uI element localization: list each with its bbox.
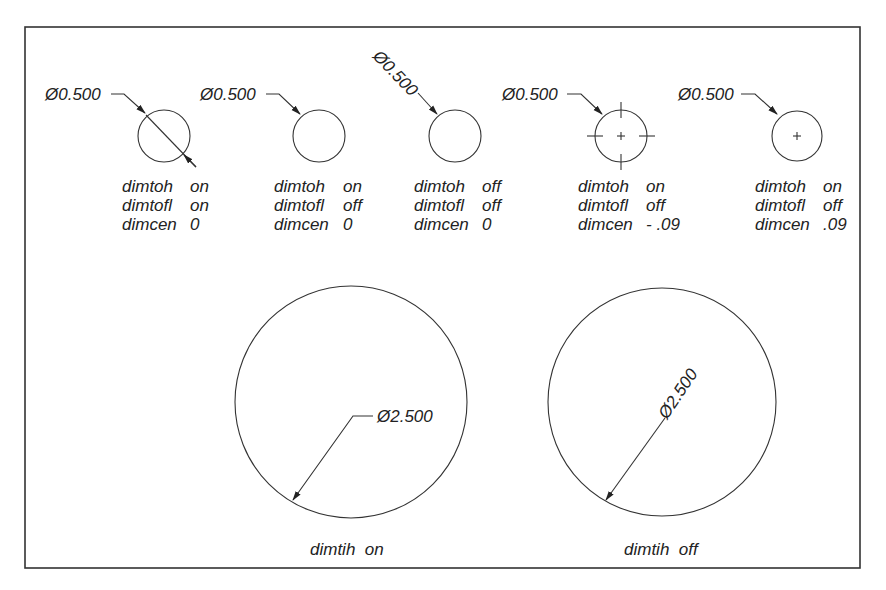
example-3: Ø0.500 dimtoh off dimtofl off dimcen 0 [368, 46, 503, 234]
leader-3 [418, 93, 437, 114]
leader-large-2 [606, 418, 665, 500]
setting-1-2: dimtofl [122, 196, 173, 215]
setting-4-3: dimcen [578, 215, 633, 234]
large-circle-1 [235, 286, 467, 518]
caption-large-1: dimtih on [310, 540, 384, 559]
value-2-3: 0 [343, 215, 353, 234]
circle-2 [293, 110, 345, 162]
setting-2-1: dimtoh [274, 177, 325, 196]
value-2-2: off [343, 196, 364, 215]
setting-3-3: dimcen [414, 215, 469, 234]
example-5: Ø0.500 dimtoh on dimtofl off dimcen .09 [677, 85, 847, 234]
large-example-2: Ø2.500 dimtih off [548, 288, 776, 559]
leader-4 [567, 94, 602, 114]
value-4-1: on [646, 177, 665, 196]
example-1: Ø0.500 dimtoh on dimtofl on dimcen 0 [44, 85, 209, 234]
setting-4-2: dimtofl [578, 196, 629, 215]
setting-3-1: dimtoh [414, 177, 465, 196]
dim-text-1: Ø0.500 [44, 85, 101, 104]
value-1-3: 0 [190, 215, 200, 234]
circle-3 [429, 110, 481, 162]
dim-text-4: Ø0.500 [501, 85, 558, 104]
value-3-3: 0 [482, 215, 492, 234]
setting-4-1: dimtoh [578, 177, 629, 196]
large-example-1: Ø2.500 dimtih on [235, 286, 467, 559]
value-1-2: on [190, 196, 209, 215]
value-4-2: off [646, 196, 667, 215]
caption-large-2: dimtih off [624, 540, 700, 559]
dim-text-large-1: Ø2.500 [376, 407, 433, 426]
leader-2 [266, 94, 300, 114]
value-5-1: on [823, 177, 842, 196]
value-5-3: .09 [823, 215, 847, 234]
value-1-1: on [190, 177, 209, 196]
dim-text-3: Ø0.500 [368, 46, 421, 100]
example-4: Ø0.500 dimtoh on dimtofl off dimcen - .0… [501, 85, 681, 234]
leader-large-1 [293, 416, 373, 500]
circle-1 [138, 110, 190, 162]
center-mark-icon [587, 102, 655, 170]
setting-3-2: dimtofl [414, 196, 465, 215]
setting-2-3: dimcen [274, 215, 329, 234]
value-3-2: off [482, 196, 503, 215]
value-5-2: off [823, 196, 844, 215]
value-2-1: on [343, 177, 362, 196]
dim-text-5: Ø0.500 [677, 85, 734, 104]
center-mark-icon [793, 132, 801, 140]
setting-2-2: dimtofl [274, 196, 325, 215]
setting-5-1: dimtoh [755, 177, 806, 196]
setting-5-3: dimcen [755, 215, 810, 234]
dim-text-large-2: Ø2.500 [654, 365, 702, 423]
arrow-1b [184, 155, 196, 167]
leader-1 [111, 94, 145, 113]
diagram-canvas: Ø0.500 dimtoh on dimtofl on dimcen 0 Ø0.… [0, 0, 886, 590]
drawing-frame [25, 27, 860, 568]
setting-1-1: dimtoh [122, 177, 173, 196]
leader-5 [741, 94, 777, 114]
example-2: Ø0.500 dimtoh on dimtofl off dimcen 0 [199, 85, 364, 234]
dim-text-2: Ø0.500 [199, 85, 256, 104]
setting-5-2: dimtofl [755, 196, 806, 215]
setting-1-3: dimcen [122, 215, 177, 234]
value-3-1: off [482, 177, 503, 196]
value-4-3: - .09 [646, 215, 681, 234]
